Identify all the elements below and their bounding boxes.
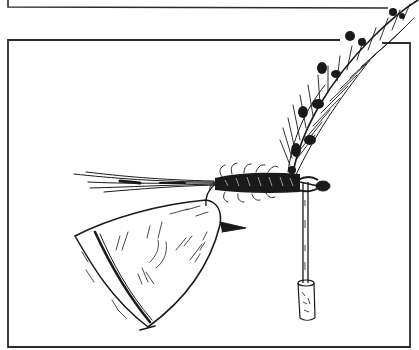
fly-illustration <box>0 0 419 350</box>
hackle-body <box>210 163 300 202</box>
upper-frame-edge <box>8 0 388 8</box>
wing-feather <box>280 0 418 178</box>
illustration-canvas <box>0 0 419 350</box>
dubbing-needle <box>303 182 308 283</box>
needle-handle <box>298 280 315 320</box>
tail-fibers <box>74 172 216 192</box>
cone-tool <box>75 200 246 330</box>
